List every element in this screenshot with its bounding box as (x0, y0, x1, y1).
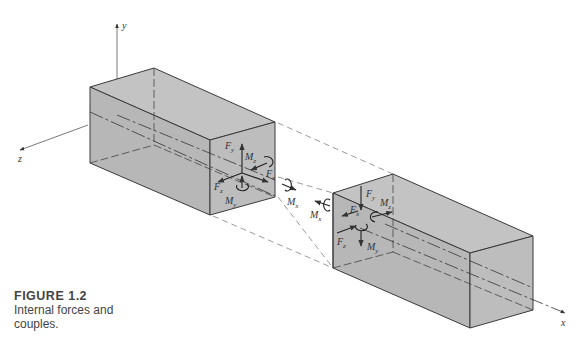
Mx-arrow-right (315, 201, 330, 206)
left-beam-segment (90, 68, 275, 215)
y-axis-label: y (121, 20, 127, 31)
figure-caption: FIGURE 1.2 Internal forces and couples. (14, 289, 113, 331)
svg-text:Mx: Mx (286, 196, 299, 210)
caption-line-2: couples. (14, 317, 113, 331)
Mx-curl-left (285, 179, 291, 191)
Mx-arrow-left (282, 184, 296, 190)
z-axis: z (17, 125, 88, 164)
svg-text:Mx: Mx (309, 209, 322, 223)
caption-line-1: Internal forces and (14, 303, 113, 317)
z-axis-label: z (17, 153, 22, 164)
figure-number: FIGURE 1.2 (14, 289, 113, 303)
x-axis-label: x (560, 317, 566, 328)
